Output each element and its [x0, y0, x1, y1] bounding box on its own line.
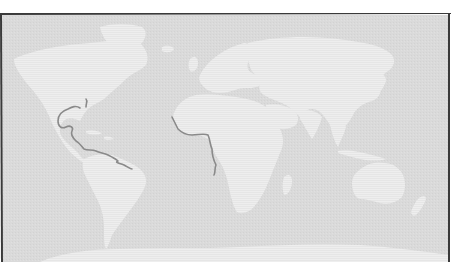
- frame-left: [1, 13, 2, 262]
- world-map: [0, 13, 451, 262]
- world-map-svg: [0, 13, 451, 262]
- frame-top: [0, 13, 451, 14]
